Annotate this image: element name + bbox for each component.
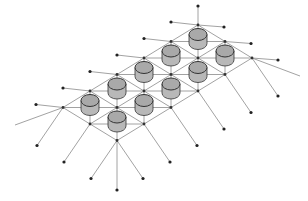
mooring-line: [144, 39, 171, 42]
anchor-icon: [222, 25, 225, 28]
anchor-icon: [142, 37, 145, 40]
anchor-icon: [249, 111, 252, 114]
mooring-line: [225, 42, 251, 44]
cylinder-floater: [108, 78, 126, 99]
anchor-icon: [115, 53, 118, 56]
anchor-icon: [115, 188, 118, 191]
anchor-icon: [249, 42, 252, 45]
lattice-node: [170, 73, 173, 76]
mooring-lines: [15, 4, 300, 191]
mooring-line: [37, 108, 63, 146]
cylinder-top: [162, 78, 180, 90]
cylinder-top: [81, 95, 99, 107]
lattice-node: [224, 40, 227, 43]
lattice-node: [116, 139, 119, 142]
cylinder-top: [135, 62, 153, 74]
anchor-icon: [276, 58, 279, 61]
lattice-node: [89, 90, 92, 93]
mooring-line: [171, 108, 197, 146]
cylinder-top: [108, 78, 126, 90]
lattice-node: [197, 90, 200, 93]
mooring-line: [117, 141, 143, 179]
cylinder-floater: [81, 95, 99, 116]
lattice-node: [143, 90, 146, 93]
anchor-icon: [61, 86, 64, 89]
cylinder-floater: [135, 62, 153, 83]
diagram-canvas: [0, 0, 308, 201]
cylinder-floaters: [81, 29, 234, 133]
cylinder-floater: [135, 95, 153, 116]
cylinder-floater: [189, 62, 207, 83]
cylinder-floater: [108, 111, 126, 132]
lattice-node: [251, 57, 254, 60]
cylinder-top: [162, 45, 180, 57]
cylinder-top: [189, 62, 207, 74]
mooring-line: [117, 55, 144, 58]
mooring-line: [64, 124, 90, 162]
anchor-icon: [276, 94, 279, 97]
cylinder-top: [135, 95, 153, 107]
anchor-icon: [168, 160, 171, 163]
lattice-node: [197, 57, 200, 60]
cylinder-top: [216, 45, 234, 57]
floating-array-diagram: [0, 0, 308, 201]
mooring-line: [252, 58, 300, 76]
lattice-node: [170, 106, 173, 109]
anchor-icon: [89, 177, 92, 180]
mooring-line: [63, 88, 90, 91]
lattice-node: [116, 73, 119, 76]
mooring-line: [171, 22, 198, 25]
mooring-line: [198, 91, 224, 129]
mooring-line: [225, 75, 251, 113]
lattice-node: [89, 123, 92, 126]
lattice-node: [62, 106, 65, 109]
anchor-icon: [35, 144, 38, 147]
lattice-node: [143, 57, 146, 60]
lattice-grid: [63, 25, 252, 141]
anchor-icon: [34, 103, 37, 106]
anchor-icon: [62, 160, 65, 163]
cylinder-top: [108, 111, 126, 123]
mooring-line: [15, 108, 63, 126]
lattice-node: [143, 123, 146, 126]
anchor-icon: [195, 144, 198, 147]
cylinder-floater: [162, 45, 180, 66]
mooring-line: [91, 141, 117, 179]
cylinder-floater: [216, 45, 234, 66]
mooring-line: [90, 72, 117, 75]
anchor-icon: [169, 20, 172, 23]
lattice-node: [116, 106, 119, 109]
lattice-node: [197, 24, 200, 27]
anchor-icon: [196, 4, 199, 7]
lattice-node: [170, 40, 173, 43]
mooring-line: [198, 25, 224, 27]
mooring-line: [36, 105, 63, 108]
mooring-line: [144, 124, 170, 162]
anchor-icon: [222, 127, 225, 130]
mooring-line: [252, 58, 278, 96]
anchor-icon: [141, 177, 144, 180]
lattice-node: [224, 73, 227, 76]
anchor-icon: [88, 70, 91, 73]
cylinder-floater: [162, 78, 180, 99]
cylinder-top: [189, 29, 207, 41]
cylinder-floater: [189, 29, 207, 50]
